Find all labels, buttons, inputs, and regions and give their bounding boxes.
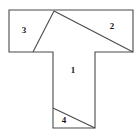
region-label-4: 4	[62, 115, 67, 125]
t-shape-diagram: 1 2 3 4	[0, 0, 140, 136]
region-label-1: 1	[71, 65, 76, 75]
region-label-2: 2	[110, 21, 115, 31]
region-label-3: 3	[22, 25, 27, 35]
figure-container: 1 2 3 4	[0, 0, 140, 136]
